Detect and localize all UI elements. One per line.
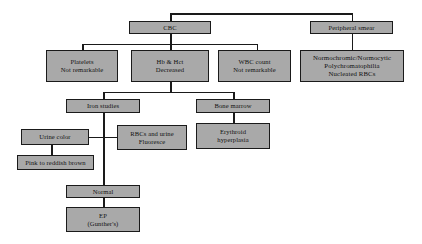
node-smear-findings-line-0: Normochromic/Normocytic bbox=[313, 54, 391, 62]
node-normal-line-0: Normal bbox=[93, 188, 114, 196]
node-hb-hct-line-0: Hb & Hct bbox=[157, 58, 184, 66]
node-wbc-count-line-0: WBC count bbox=[238, 58, 270, 66]
node-platelets-line-1: Not remarkable bbox=[61, 66, 104, 74]
connector-row3-bus bbox=[103, 92, 234, 94]
node-urine-color-line-0: Urine color bbox=[39, 133, 70, 141]
node-hb-hct[interactable]: Hb & Hct Decreased bbox=[131, 50, 209, 82]
node-platelets[interactable]: Platelets Not remarkable bbox=[46, 50, 118, 82]
node-urine-color[interactable]: Urine color bbox=[21, 129, 89, 145]
connector-root-to-cbc bbox=[170, 13, 172, 21]
node-bone-marrow[interactable]: Bone marrow bbox=[196, 99, 270, 113]
connector-cbc-down bbox=[170, 34, 172, 44]
node-erythroid-hyperplasia-line-1: hyperplasia bbox=[217, 136, 249, 144]
node-peripheral-smear-line-0: Peripheral smear bbox=[328, 24, 374, 32]
connector-root-horizontal bbox=[170, 13, 353, 15]
connector-iron-spine bbox=[103, 113, 105, 185]
node-wbc-count[interactable]: WBC count Not remarkable bbox=[218, 50, 291, 82]
node-iron-studies[interactable]: Iron studies bbox=[66, 99, 140, 113]
node-smear-findings-line-1: Polychromatophilia bbox=[324, 62, 379, 70]
node-pink-to-reddish-brown-line-0: Pink to reddish brown bbox=[25, 159, 86, 167]
node-hb-hct-line-1: Decreased bbox=[156, 66, 184, 74]
node-normal[interactable]: Normal bbox=[66, 185, 140, 198]
connector-spine-to-rbc bbox=[103, 137, 117, 139]
node-cbc-line-0: CBC bbox=[163, 24, 177, 32]
node-rbcs-urine-fluoresce-line-0: RBCs and urine bbox=[130, 130, 174, 138]
flowchart-diagram: CBC Peripheral smear Platelets Not remar… bbox=[0, 0, 422, 244]
connector-marrow-to-erythroid bbox=[233, 113, 235, 123]
node-cbc[interactable]: CBC bbox=[129, 21, 211, 34]
node-smear-findings[interactable]: Normochromic/Normocytic Polychromatophil… bbox=[300, 50, 404, 82]
node-pink-to-reddish-brown[interactable]: Pink to reddish brown bbox=[17, 155, 94, 170]
node-wbc-count-line-1: Not remarkable bbox=[233, 66, 276, 74]
node-bone-marrow-line-0: Bone marrow bbox=[214, 102, 251, 110]
node-platelets-line-0: Platelets bbox=[70, 58, 93, 66]
connector-hb-down bbox=[170, 82, 172, 92]
node-smear-findings-line-2: Nucleated RBCs bbox=[329, 70, 376, 78]
node-ep-gunthers-line-0: EP bbox=[99, 212, 107, 220]
connector-normal-to-ep bbox=[103, 198, 105, 207]
connector-spine-to-urine bbox=[89, 137, 104, 139]
connector-peripheral-to-findings bbox=[352, 34, 354, 50]
node-rbcs-urine-fluoresce-line-1: Fluoresce bbox=[139, 138, 166, 146]
connector-urine-to-pink bbox=[51, 145, 53, 155]
node-erythroid-hyperplasia[interactable]: Erythroid hyperplasia bbox=[196, 123, 270, 149]
node-rbcs-urine-fluoresce[interactable]: RBCs and urine Fluoresce bbox=[117, 125, 187, 150]
node-erythroid-hyperplasia-line-0: Erythroid bbox=[220, 128, 246, 136]
node-iron-studies-line-0: Iron studies bbox=[87, 102, 119, 110]
connector-root-to-peripheral bbox=[352, 13, 354, 21]
node-ep-gunthers-line-1: (Gunther's) bbox=[88, 220, 119, 228]
node-ep-gunthers[interactable]: EP (Gunther's) bbox=[66, 207, 140, 232]
node-peripheral-smear[interactable]: Peripheral smear bbox=[310, 21, 393, 34]
